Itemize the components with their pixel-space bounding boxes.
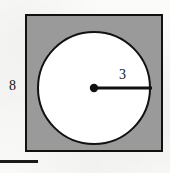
figure-canvas	[0, 0, 170, 173]
circle-center-dot	[90, 84, 98, 92]
bottom-rule	[0, 160, 38, 163]
radius-length-label: 3	[119, 68, 126, 82]
side-length-label: 8	[9, 79, 16, 93]
geometry-figure: 8 3	[0, 0, 170, 173]
